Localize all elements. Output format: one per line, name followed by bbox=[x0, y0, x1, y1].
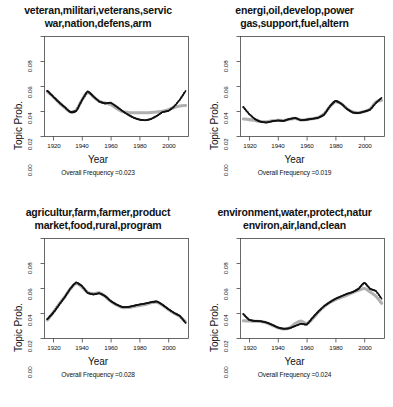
plot-area: Topic Prob. 0.00 0.02 0.04 0.06 0.08 bbox=[196, 232, 393, 352]
x-tick-2: 1960 bbox=[296, 344, 318, 351]
x-tickmarks bbox=[250, 137, 365, 141]
topic-panel-environment: environment,water,protect,natur environ,… bbox=[196, 200, 393, 407]
y-tick-2: 0.04 bbox=[222, 314, 229, 326]
panel-title: agricultur,farm,farmer,product market,fo… bbox=[0, 200, 196, 232]
x-axis-label: Year bbox=[196, 154, 393, 165]
overall-frequency-label: Overall Frequency =0.024 bbox=[196, 371, 393, 378]
x-tick-4: 2000 bbox=[354, 142, 376, 149]
x-tick-1: 1940 bbox=[71, 142, 93, 149]
y-tickmarks bbox=[41, 239, 45, 339]
x-tick-2: 1960 bbox=[296, 142, 318, 149]
plot-frame bbox=[45, 37, 189, 137]
y-axis-label: Topic Prob. bbox=[13, 101, 24, 150]
panel-title-line2: war,nation,defens,arm bbox=[45, 17, 152, 29]
x-tick-0: 1920 bbox=[239, 344, 261, 351]
y-tick-2: 0.04 bbox=[26, 112, 33, 124]
plot-area: Topic Prob. 0.00 0.02 0.04 0.06 0.08 bbox=[196, 30, 393, 150]
y-tick-1: 0.02 bbox=[222, 340, 229, 352]
x-tick-4: 2000 bbox=[354, 344, 376, 351]
x-tick-4: 2000 bbox=[158, 344, 180, 351]
x-tick-1: 1940 bbox=[71, 344, 93, 351]
x-tick-3: 1980 bbox=[129, 142, 151, 149]
panel-title: veteran,militari,veterans,servic war,nat… bbox=[0, 0, 196, 30]
y-tick-3: 0.06 bbox=[222, 86, 229, 98]
x-axis-label: Year bbox=[0, 154, 196, 165]
plot-frame bbox=[45, 239, 189, 339]
x-axis-label: Year bbox=[0, 356, 196, 367]
y-tick-4: 0.08 bbox=[222, 262, 229, 274]
overall-frequency-label: Overall Frequency =0.023 bbox=[0, 169, 196, 176]
panel-title-line2: market,food,rural,program bbox=[35, 219, 162, 231]
x-tick-1: 1940 bbox=[267, 344, 289, 351]
x-tickmarks bbox=[54, 137, 169, 141]
panel-title-line1: veteran,militari,veterans,servic bbox=[24, 4, 172, 16]
y-tick-1: 0.02 bbox=[26, 340, 33, 352]
y-tick-1: 0.02 bbox=[26, 138, 33, 150]
observed-curve bbox=[47, 91, 185, 120]
y-tick-3: 0.06 bbox=[222, 288, 229, 300]
topic-panel-grid: veteran,militari,veterans,servic war,nat… bbox=[0, 0, 393, 407]
topic-panel-agriculture: agricultur,farm,farmer,product market,fo… bbox=[0, 200, 196, 407]
smoothed-curve bbox=[243, 288, 381, 329]
y-tickmarks bbox=[237, 37, 241, 137]
topic-panel-veteran: veteran,militari,veterans,servic war,nat… bbox=[0, 0, 196, 200]
x-tickmarks bbox=[250, 339, 365, 343]
observed-points bbox=[47, 90, 186, 121]
panel-title-line1: environment,water,protect,natur bbox=[217, 206, 371, 218]
observed-curve bbox=[47, 282, 185, 322]
x-tick-1: 1940 bbox=[267, 142, 289, 149]
y-axis-label: Topic Prob. bbox=[13, 303, 24, 352]
plot-area: Topic Prob. 0.00 0.02 0.04 0.06 0.08 bbox=[0, 232, 196, 352]
y-tick-2: 0.04 bbox=[222, 112, 229, 124]
y-tick-4: 0.08 bbox=[26, 60, 33, 72]
panel-title: environment,water,protect,natur environ,… bbox=[196, 200, 393, 232]
y-tick-4: 0.08 bbox=[222, 60, 229, 72]
x-tick-3: 1980 bbox=[325, 142, 347, 149]
y-tick-1: 0.02 bbox=[222, 138, 229, 150]
observed-points bbox=[47, 282, 186, 322]
x-tick-2: 1960 bbox=[100, 344, 122, 351]
x-tick-0: 1920 bbox=[239, 142, 261, 149]
y-axis-label: Topic Prob. bbox=[209, 303, 220, 352]
y-tickmarks bbox=[237, 239, 241, 339]
y-axis-label: Topic Prob. bbox=[209, 101, 220, 150]
x-tick-2: 1960 bbox=[100, 142, 122, 149]
x-tick-3: 1980 bbox=[129, 344, 151, 351]
panel-title-line2: environ,air,land,clean bbox=[243, 219, 346, 231]
x-axis-label: Year bbox=[196, 356, 393, 367]
panel-title-line2: gas,support,fuel,altern bbox=[240, 17, 349, 29]
topic-panel-energy: energi,oil,develop,power gas,support,fue… bbox=[196, 0, 393, 200]
overall-frequency-label: Overall Frequency =0.019 bbox=[196, 169, 393, 176]
y-tick-3: 0.06 bbox=[26, 288, 33, 300]
observed-points bbox=[243, 98, 382, 123]
panel-title-line1: energi,oil,develop,power bbox=[235, 4, 353, 16]
x-tick-3: 1980 bbox=[325, 344, 347, 351]
y-tickmarks bbox=[41, 37, 45, 137]
y-tick-3: 0.06 bbox=[26, 86, 33, 98]
x-tick-0: 1920 bbox=[43, 344, 65, 351]
x-tickmarks bbox=[54, 339, 169, 343]
panel-title: energi,oil,develop,power gas,support,fue… bbox=[196, 0, 393, 30]
x-tick-4: 2000 bbox=[158, 142, 180, 149]
y-tick-4: 0.08 bbox=[26, 262, 33, 274]
overall-frequency-label: Overall Frequency =0.028 bbox=[0, 371, 196, 378]
plot-area: Topic Prob. 0.00 0.02 0.04 0.06 0.08 bbox=[0, 30, 196, 150]
x-tick-0: 1920 bbox=[43, 142, 65, 149]
panel-title-line1: agricultur,farm,farmer,product bbox=[26, 206, 171, 218]
y-tick-2: 0.04 bbox=[26, 314, 33, 326]
smoothed-curve bbox=[47, 283, 185, 322]
